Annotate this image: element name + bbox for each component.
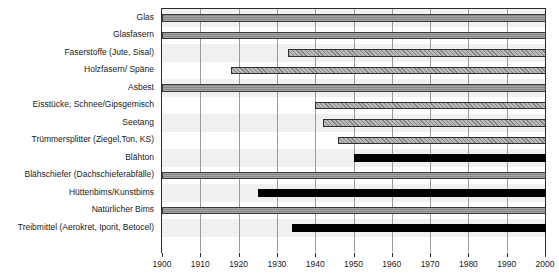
- gridline: [200, 9, 201, 252]
- timeline-bar[interactable]: [315, 102, 546, 110]
- category-label: Glas: [137, 12, 154, 22]
- timeline-bar[interactable]: [338, 137, 546, 145]
- timeline-bar[interactable]: [258, 189, 546, 197]
- timeline-bar[interactable]: [323, 119, 546, 127]
- category-label: Eisstücke, Schnee/Gipsgemisch: [33, 99, 154, 109]
- gridline: [507, 9, 508, 252]
- timeline-bar[interactable]: [162, 84, 546, 92]
- gridline: [392, 9, 393, 252]
- x-axis-tick-label: 1960: [382, 259, 401, 269]
- x-axis-tick: [315, 253, 316, 257]
- category-label: Natürlicher Bims: [92, 204, 154, 214]
- x-axis-tick-label: 1910: [191, 259, 210, 269]
- x-axis-tick-label: 1940: [306, 259, 325, 269]
- timeline-bar[interactable]: [162, 172, 546, 180]
- timeline-bar[interactable]: [162, 32, 546, 40]
- timeline-bar[interactable]: [231, 67, 546, 75]
- x-axis-tick: [468, 253, 469, 257]
- gridline: [315, 9, 316, 252]
- x-axis-tick-label: 1980: [459, 259, 478, 269]
- category-label: Holzfasern/ Späne: [84, 64, 154, 74]
- x-axis-tick-label: 1930: [267, 259, 286, 269]
- gridline: [277, 9, 278, 252]
- gridline: [430, 9, 431, 252]
- plot-area: [161, 8, 546, 253]
- x-axis-tick: [507, 253, 508, 257]
- x-axis-tick: [200, 253, 201, 257]
- category-label: Blähton: [125, 152, 154, 162]
- x-axis-tick-label: 2000: [536, 259, 555, 269]
- x-axis-tick-label: 1970: [421, 259, 440, 269]
- x-axis-tick-label: 1920: [229, 259, 248, 269]
- category-label: Blähschiefer (Dachschieferabfälle): [25, 169, 154, 179]
- timeline-bar[interactable]: [162, 207, 546, 215]
- x-axis-tick: [430, 253, 431, 257]
- x-axis-tick-label: 1950: [344, 259, 363, 269]
- timeline-bar[interactable]: [162, 14, 546, 22]
- x-axis-tick: [354, 253, 355, 257]
- gridline: [239, 9, 240, 252]
- category-label: Glasfasern: [113, 29, 154, 39]
- gridline: [468, 9, 469, 252]
- x-axis-tick: [545, 253, 546, 257]
- x-axis-tick: [392, 253, 393, 257]
- x-axis-tick: [277, 253, 278, 257]
- gantt-timeline-chart: GlasGlasfasernFaserstoffe (Jute, Sisal)H…: [0, 0, 559, 280]
- timeline-bar[interactable]: [292, 224, 546, 232]
- category-label: Asbest: [128, 82, 154, 92]
- category-label-column: GlasGlasfasernFaserstoffe (Jute, Sisal)H…: [0, 8, 158, 253]
- category-label: Trümmersplitter (Ziegel,Ton, KS): [32, 134, 155, 144]
- x-axis-tick: [162, 253, 163, 257]
- x-axis-tick: [239, 253, 240, 257]
- timeline-bar[interactable]: [354, 154, 547, 162]
- category-label: Faserstoffe (Jute, Sisal): [64, 47, 154, 57]
- gridline: [354, 9, 355, 252]
- category-label: Treibmittel (Aerokret, Iporit, Betocel): [18, 222, 154, 232]
- x-axis-tick-label: 1990: [497, 259, 516, 269]
- x-axis-label-group: 1900191019201930194019501960197019801990…: [0, 259, 559, 275]
- timeline-bar[interactable]: [288, 49, 546, 57]
- x-axis-tick-label: 1900: [153, 259, 172, 269]
- category-label: Seetang: [122, 117, 154, 127]
- category-label: Hüttenbims/Kunstbims: [69, 187, 154, 197]
